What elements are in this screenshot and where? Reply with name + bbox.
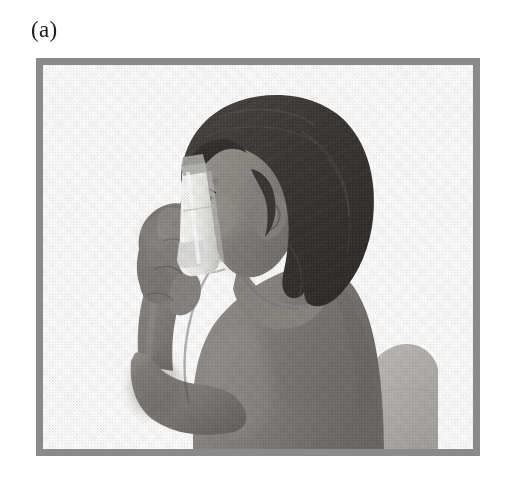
inhaler-illustration: [43, 65, 473, 449]
panel-label: (a): [31, 16, 57, 44]
image-frame: [36, 58, 480, 456]
halftone-screen: [43, 65, 473, 449]
figure-root: (a): [0, 0, 507, 479]
